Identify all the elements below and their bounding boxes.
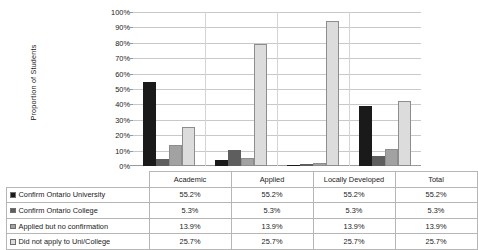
bar bbox=[385, 149, 398, 166]
y-axis-title: Proportion of Students bbox=[29, 3, 38, 163]
bar bbox=[372, 156, 385, 166]
legend-swatch-icon bbox=[10, 224, 16, 230]
table-cell-value: 13.9% bbox=[149, 218, 231, 234]
table-column-header: Applied bbox=[231, 172, 313, 188]
bar bbox=[300, 164, 313, 166]
bar-group bbox=[205, 12, 277, 166]
table-cell-value: 5.3% bbox=[313, 203, 395, 219]
table-cell-value: 13.9% bbox=[313, 218, 395, 234]
legend-label: Confirm Ontario University bbox=[19, 190, 106, 199]
table-cell-value: 5.3% bbox=[149, 203, 231, 219]
table-row: Confirm Ontario University55.2%55.2%55.2… bbox=[7, 187, 478, 203]
bar bbox=[143, 82, 156, 166]
bar bbox=[287, 165, 300, 166]
y-axis-tick-label: 80% bbox=[96, 38, 130, 47]
bar bbox=[228, 150, 241, 166]
category-separator bbox=[205, 12, 206, 166]
y-axis-tick-label: 0% bbox=[96, 162, 130, 171]
bar bbox=[169, 145, 182, 166]
table-column-header: Academic bbox=[149, 172, 231, 188]
legend-label: Did not apply to Uni/College bbox=[19, 237, 111, 246]
legend-label: Confirm Ontario College bbox=[19, 206, 98, 215]
bar bbox=[359, 106, 372, 166]
data-table: AcademicAppliedLocally DevelopedTotalCon… bbox=[6, 171, 478, 250]
y-axis-tick-label: 90% bbox=[96, 23, 130, 32]
table-column-header: Locally Developed bbox=[313, 172, 395, 188]
table-cell-value: 55.2% bbox=[149, 187, 231, 203]
y-axis-tick-label: 20% bbox=[96, 131, 130, 140]
table-corner-cell bbox=[7, 172, 150, 188]
table-cell-value: 25.7% bbox=[231, 234, 313, 250]
y-axis-tick-label: 30% bbox=[96, 115, 130, 124]
bar-groups bbox=[133, 12, 421, 166]
bar-group bbox=[133, 12, 205, 166]
y-axis-tick-label: 50% bbox=[96, 85, 130, 94]
table-cell-value: 55.2% bbox=[231, 187, 313, 203]
bar bbox=[398, 101, 411, 166]
bar-group bbox=[349, 12, 421, 166]
bar bbox=[156, 159, 169, 166]
bar bbox=[254, 44, 267, 166]
legend-swatch-icon bbox=[10, 192, 16, 198]
y-axis-tick-label: 100% bbox=[96, 8, 130, 17]
table-cell-value: 55.2% bbox=[313, 187, 395, 203]
bar bbox=[326, 21, 339, 166]
y-axis-tick-label: 70% bbox=[96, 54, 130, 63]
table-cell-value: 5.3% bbox=[395, 203, 477, 219]
bar bbox=[313, 163, 326, 166]
table-cell-value: 55.2% bbox=[395, 187, 477, 203]
legend-entry: Applied but no confirmation bbox=[7, 218, 150, 234]
legend-swatch-icon bbox=[10, 239, 16, 245]
category-separator bbox=[349, 12, 350, 166]
y-axis-tick-label: 40% bbox=[96, 100, 130, 109]
table-row: Applied but no confirmation13.9%13.9%13.… bbox=[7, 218, 478, 234]
table-column-header: Total bbox=[395, 172, 477, 188]
table-cell-value: 25.7% bbox=[395, 234, 477, 250]
table-cell-value: 25.7% bbox=[313, 234, 395, 250]
legend-entry: Did not apply to Uni/College bbox=[7, 234, 150, 250]
table-row: Did not apply to Uni/College25.7%25.7%25… bbox=[7, 234, 478, 250]
plot-box bbox=[133, 12, 421, 166]
table-header-row: AcademicAppliedLocally DevelopedTotal bbox=[7, 172, 478, 188]
bar-group bbox=[277, 12, 349, 166]
bar bbox=[241, 158, 254, 166]
legend-label: Applied but no confirmation bbox=[19, 222, 109, 231]
table-cell-value: 5.3% bbox=[231, 203, 313, 219]
chart-plot-region: Proportion of Students 100%90%80%70%60%5… bbox=[0, 0, 438, 172]
y-axis-tick-label: 60% bbox=[96, 69, 130, 78]
table-cell-value: 13.9% bbox=[395, 218, 477, 234]
table-row: Confirm Ontario College5.3%5.3%5.3%5.3% bbox=[7, 203, 478, 219]
legend-entry: Confirm Ontario College bbox=[7, 203, 150, 219]
legend-entry: Confirm Ontario University bbox=[7, 187, 150, 203]
category-separator bbox=[277, 12, 278, 166]
table-cell-value: 25.7% bbox=[149, 234, 231, 250]
bar bbox=[215, 160, 228, 166]
table-cell-value: 13.9% bbox=[231, 218, 313, 234]
legend-swatch-icon bbox=[10, 208, 16, 214]
y-axis-tick-labels: 100%90%80%70%60%50%40%30%20%10%0% bbox=[96, 12, 130, 166]
bar bbox=[182, 127, 195, 166]
y-axis-tick-label: 10% bbox=[96, 146, 130, 155]
